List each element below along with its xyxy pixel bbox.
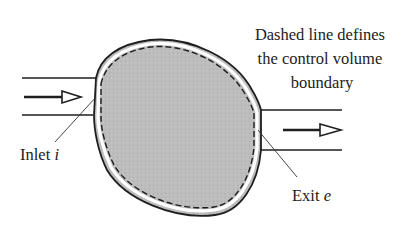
exit-label: Exit e	[292, 186, 331, 205]
inlet-leader-line	[55, 97, 96, 142]
inlet-label: Inlet i	[20, 145, 59, 164]
inlet-symbol: i	[54, 145, 59, 164]
control-volume-region	[94, 40, 261, 216]
exit-flow-arrow-icon	[283, 124, 341, 136]
control-volume-diagram: Dashed line defines the control volume b…	[0, 0, 413, 236]
exit-leader-line	[258, 130, 297, 177]
inlet-flow-arrow-icon	[24, 91, 81, 103]
annotation-text: Dashed line defines the control volume b…	[255, 25, 389, 92]
exit-symbol: e	[324, 186, 331, 205]
